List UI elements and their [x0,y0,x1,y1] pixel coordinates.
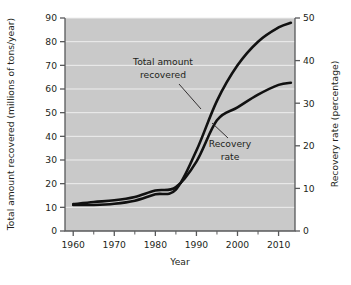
recovery-chart-figure: 0102030405060708090 01020304050 19601970… [0,0,351,285]
right-axis-tick-label: 10 [303,183,315,194]
left-axis-tick-label: 80 [45,36,57,47]
left-axis-tick-label: 10 [45,202,57,213]
right-axis-tick-label: 20 [303,140,315,151]
x-axis-tick-label: 1990 [185,239,209,250]
right-axis-tick-label: 0 [303,225,309,236]
right-axis-tick-label: 40 [303,55,315,66]
y2-axis-title: Recovery rate (percentage) [329,61,340,188]
left-axis-tick-label: 20 [45,178,57,189]
plot-area-background [65,18,295,231]
left-axis-tick-label: 0 [51,225,57,236]
left-axis-tick-label: 40 [45,131,57,142]
x-axis-tick-label: 2000 [226,239,250,250]
annotation-recovery-rate-line1: Recovery [209,138,252,149]
right-axis-tick-label: 50 [303,12,315,23]
x-axis-title: Year [169,256,190,267]
x-axis-tick-label: 1960 [62,239,86,250]
y-axis-title: Total amount recovered (millions of tons… [5,18,16,231]
annotation-total-amount-line1: Total amount [132,56,193,67]
chart-svg: 0102030405060708090 01020304050 19601970… [0,0,351,285]
left-axis-tick-label: 30 [45,154,57,165]
x-axis-tick-label: 1980 [144,239,168,250]
annotation-recovery-rate-line2: rate [221,151,240,162]
left-axis-tick-label: 70 [45,60,57,71]
x-axis-tick-label: 2010 [267,239,291,250]
left-axis-tick-label: 90 [45,12,57,23]
left-axis-tick-label: 50 [45,107,57,118]
annotation-total-amount-line2: recovered [140,69,186,80]
left-axis-tick-label: 60 [45,83,57,94]
right-axis-tick-label: 30 [303,98,315,109]
x-axis-tick-label: 1970 [103,239,127,250]
